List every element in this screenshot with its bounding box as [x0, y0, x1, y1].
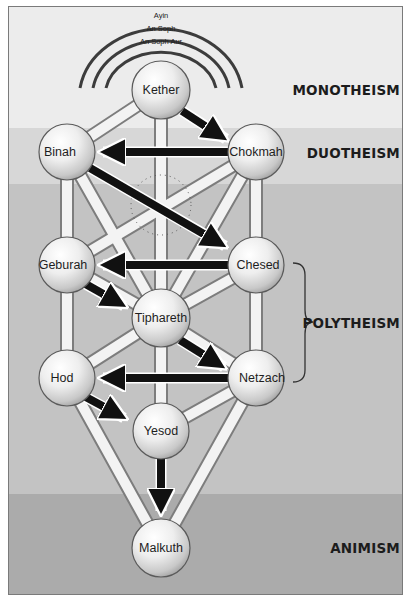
label-hod: Hod: [51, 371, 74, 385]
label-kether: Kether: [143, 83, 180, 97]
label-tiphareth: Tiphareth: [135, 311, 187, 325]
tier-label-animism: ANIMISM: [330, 540, 400, 556]
veil-label-an-soph-aur: An Soph Aur: [140, 37, 183, 46]
label-yesod: Yesod: [144, 424, 178, 438]
veil-label-an-soph: An Soph: [147, 24, 176, 33]
tier-label-polytheism: POLYTHEISM: [302, 315, 400, 331]
label-chesed: Chesed: [236, 258, 279, 272]
label-binah: Binah: [44, 145, 76, 159]
label-malkuth: Malkuth: [139, 541, 183, 555]
tier-label-duotheism: DUOTHEISM: [307, 145, 400, 161]
veil-label-ayin: Ayin: [154, 11, 168, 20]
tier-label-monotheism: MONOTHEISM: [292, 82, 400, 98]
arrow-kether-chokmah: [182, 111, 222, 137]
label-netzach: Netzach: [239, 371, 285, 385]
label-geburah: Geburah: [39, 258, 88, 272]
label-chokmah: Chokmah: [229, 145, 283, 159]
